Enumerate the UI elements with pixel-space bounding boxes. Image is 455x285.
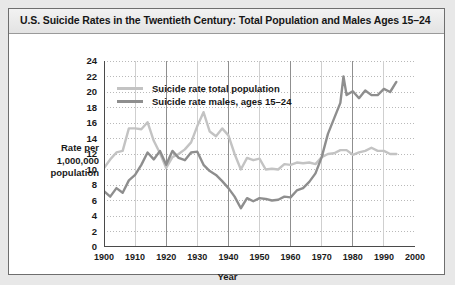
legend-item-1[interactable]: Suicide rate males, ages 15–24 bbox=[117, 95, 291, 108]
y-axis-tick-label-22: 22 bbox=[75, 71, 97, 82]
chart-legend: Suicide rate total populationSuicide rat… bbox=[117, 82, 291, 108]
x-axis-title: Year bbox=[9, 271, 446, 282]
chart-panel: U.S. Suicide Rates in the Twentieth Cent… bbox=[8, 8, 445, 275]
y-axis-tick-label-14: 14 bbox=[75, 133, 97, 144]
legend-swatch-icon-1 bbox=[117, 100, 143, 103]
y-axis-tick-label-2: 2 bbox=[75, 226, 97, 237]
y-axis-tick-label-4: 4 bbox=[75, 210, 97, 221]
legend-item-0[interactable]: Suicide rate total population bbox=[117, 82, 291, 95]
y-axis-tick-label-20: 20 bbox=[75, 86, 97, 97]
x-axis-tick-label-1990: 1990 bbox=[367, 252, 401, 262]
legend-label-1: Suicide rate males, ages 15–24 bbox=[152, 96, 291, 107]
y-axis-tick-label-6: 6 bbox=[75, 195, 97, 206]
x-axis-tick-label-1900: 1900 bbox=[87, 252, 121, 262]
x-axis-tick-label-1970: 1970 bbox=[305, 252, 339, 262]
chart-title: U.S. Suicide Rates in the Twentieth Cent… bbox=[20, 14, 431, 26]
x-axis-tick-label-1980: 1980 bbox=[336, 252, 370, 262]
y-axis-tick-label-8: 8 bbox=[75, 179, 97, 190]
x-axis-tick-label-1940: 1940 bbox=[211, 252, 245, 262]
y-axis-tick-label-18: 18 bbox=[75, 102, 97, 113]
y-axis-tick-label-16: 16 bbox=[75, 117, 97, 128]
x-axis-tick-label-1930: 1930 bbox=[180, 252, 214, 262]
y-axis-tick-label-10: 10 bbox=[75, 164, 97, 175]
legend-swatch-icon-0 bbox=[117, 87, 143, 90]
y-axis-tick-label-12: 12 bbox=[75, 148, 97, 159]
y-axis-tick-label-24: 24 bbox=[75, 55, 97, 66]
x-axis-tick-label-1920: 1920 bbox=[149, 252, 183, 262]
x-axis-tick-label-1910: 1910 bbox=[118, 252, 152, 262]
x-axis-tick-label-1960: 1960 bbox=[274, 252, 308, 262]
title-bar: U.S. Suicide Rates in the Twentieth Cent… bbox=[9, 9, 444, 34]
x-axis-tick-label-1950: 1950 bbox=[243, 252, 277, 262]
y-axis-tick-label-0: 0 bbox=[75, 241, 97, 252]
legend-label-0: Suicide rate total population bbox=[152, 83, 280, 94]
x-axis-tick-label-2000: 2000 bbox=[398, 252, 432, 262]
